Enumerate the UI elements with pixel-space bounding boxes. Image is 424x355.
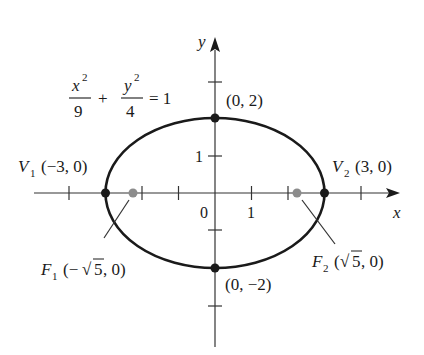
bottom-covertex-label: (0, −2): [225, 275, 271, 294]
svg-text:5: 5: [352, 252, 361, 271]
f2-leader-line: [302, 200, 335, 244]
v1-label: V 1 (−3, 0): [18, 157, 87, 179]
svg-text:+: +: [98, 89, 108, 108]
vertex-v2-point: [320, 189, 329, 198]
svg-text:4: 4: [126, 102, 135, 121]
svg-text:F: F: [40, 260, 52, 279]
origin-label: 0: [200, 204, 208, 221]
x-axis: x 1 0: [34, 186, 401, 222]
focus-f2-point: [293, 189, 302, 198]
svg-text:, 0): , 0): [361, 252, 384, 271]
svg-text:1: 1: [30, 167, 36, 179]
y-axis: y 1: [195, 32, 222, 347]
x-tick-label-1: 1: [247, 204, 255, 221]
svg-text:= 1: = 1: [149, 89, 171, 108]
svg-text:y: y: [122, 76, 132, 95]
svg-text:x: x: [71, 76, 80, 95]
svg-text:√: √: [340, 252, 350, 271]
svg-text:(3, 0): (3, 0): [355, 157, 392, 176]
svg-text:2: 2: [344, 167, 350, 179]
f1-label: F 1 (− √ 5 , 0): [40, 259, 126, 282]
top-covertex-point: [211, 114, 220, 123]
x-axis-label: x: [392, 203, 401, 222]
svg-text:9: 9: [74, 102, 83, 121]
svg-text:5: 5: [94, 260, 103, 279]
svg-text:F: F: [311, 252, 323, 271]
f2-label: F 2 ( √ 5 , 0): [311, 251, 384, 274]
top-covertex-label: (0, 2): [226, 91, 263, 110]
y-tick-label-1: 1: [195, 148, 203, 165]
svg-text:2: 2: [82, 71, 88, 83]
bottom-covertex-point: [211, 264, 220, 273]
svg-text:√: √: [82, 260, 92, 279]
svg-text:2: 2: [134, 71, 140, 83]
focus-f1-point: [129, 189, 138, 198]
v2-label: V 2 (3, 0): [332, 157, 392, 179]
y-axis-label: y: [196, 32, 206, 51]
vertex-v1-point: [101, 189, 110, 198]
y-axis-arrow-icon: [210, 37, 220, 52]
svg-text:(−3, 0): (−3, 0): [41, 157, 87, 176]
equation-label: x 2 9 + y 2 4 = 1: [69, 71, 171, 121]
svg-text:2: 2: [323, 262, 329, 274]
svg-text:1: 1: [52, 270, 58, 282]
svg-text:(−: (−: [63, 260, 78, 279]
ellipse-figure: x 1 0 y 1 x 2 9 + y 2 4 = 1 V: [0, 0, 424, 355]
svg-text:, 0): , 0): [103, 260, 126, 279]
